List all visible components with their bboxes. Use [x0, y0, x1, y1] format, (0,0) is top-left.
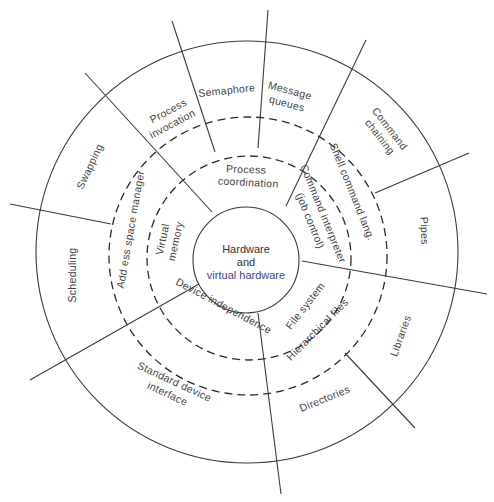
label-address-space-manager: Add ess space manager — [114, 169, 147, 289]
center-label-virtual-hardware: virtual hardware — [207, 269, 285, 281]
label-process-coordination-2: coordination — [218, 174, 279, 189]
divider-semaphore-message — [258, 10, 268, 148]
divider-directories-standard — [258, 313, 281, 494]
os-layers-diagram: Hardware and virtual hardware Process co… — [0, 0, 494, 502]
label-directories: Directories — [297, 383, 351, 414]
divider-pipes-libraries — [302, 261, 487, 294]
label-process-coordination-1: Process — [226, 162, 266, 175]
label-swapping: Swapping — [74, 142, 105, 191]
divider-swapping-invocation — [85, 73, 212, 212]
label-libraries: Libraries — [387, 313, 413, 357]
divider-libraries-directories — [345, 353, 415, 428]
label-pipes: Pipes — [419, 217, 432, 245]
divider-chaining-pipes — [375, 153, 469, 193]
label-scheduling: Scheduling — [66, 248, 78, 303]
center-label-hardware: Hardware — [222, 243, 270, 255]
label-device-independence: Device independence — [174, 275, 274, 336]
center-label-and: and — [237, 256, 255, 268]
divider-device-scheduling — [30, 284, 199, 380]
divider-scheduling-swapping — [10, 204, 111, 224]
label-semaphore: Semaphore — [198, 81, 256, 99]
